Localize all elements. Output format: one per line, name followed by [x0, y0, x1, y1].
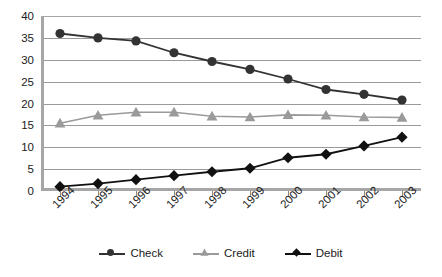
- data-point: [320, 149, 331, 160]
- line-chart: 0510152025303540 19941995199619971998199…: [0, 0, 442, 277]
- data-point: [282, 152, 293, 163]
- data-point: [359, 90, 368, 99]
- y-tick-label: 0: [4, 185, 34, 197]
- data-point: [168, 170, 179, 181]
- legend-item-debit[interactable]: Debit: [285, 248, 343, 260]
- legend-label: Check: [130, 248, 163, 260]
- data-point: [207, 57, 216, 66]
- data-point: [130, 174, 141, 185]
- legend-marker: [106, 248, 115, 257]
- legend-item-check[interactable]: Check: [99, 248, 163, 260]
- y-tick-label: 5: [4, 163, 34, 175]
- data-point: [397, 95, 406, 104]
- series-credit: [55, 107, 408, 128]
- series-line: [60, 34, 402, 101]
- chart-legend: CheckCreditDebit: [0, 248, 442, 260]
- data-point: [169, 48, 178, 57]
- legend-label: Debit: [316, 248, 343, 260]
- data-point: [245, 65, 254, 74]
- series-check: [55, 29, 406, 105]
- x-axis-labels: 1994199519961997199819992000200120022003: [41, 196, 421, 240]
- y-tick-label: 30: [4, 54, 34, 66]
- series-line: [60, 137, 402, 186]
- data-point: [396, 132, 407, 143]
- legend-label: Credit: [224, 248, 255, 260]
- data-point: [131, 36, 140, 45]
- triangle-marker-icon: [193, 248, 219, 260]
- data-point: [206, 166, 217, 177]
- y-tick-label: 20: [4, 98, 34, 110]
- series-debit: [54, 132, 407, 193]
- data-series-layer: [41, 16, 421, 191]
- circle-marker-icon: [99, 248, 125, 260]
- y-tick-label: 35: [4, 32, 34, 44]
- series-line: [60, 112, 402, 123]
- y-tick-label: 25: [4, 76, 34, 88]
- y-tick-label: 40: [4, 10, 34, 22]
- diamond-marker-icon: [285, 248, 311, 260]
- data-point: [358, 140, 369, 151]
- plot-area: [41, 16, 421, 191]
- data-point: [283, 74, 292, 83]
- y-tick-label: 10: [4, 141, 34, 153]
- legend-marker: [292, 248, 301, 257]
- data-point: [244, 163, 255, 174]
- data-point: [93, 33, 102, 42]
- data-point: [321, 85, 330, 94]
- legend-item-credit[interactable]: Credit: [193, 248, 255, 260]
- y-tick-label: 15: [4, 119, 34, 131]
- legend-marker: [200, 248, 209, 257]
- data-point: [55, 29, 64, 38]
